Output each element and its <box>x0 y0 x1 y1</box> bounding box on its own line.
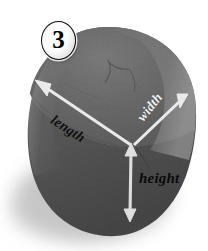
figure-canvas: length width height 3 <box>0 0 208 251</box>
specimen-number-badge: 3 <box>41 21 76 60</box>
rock-diagram-graphic <box>0 0 208 251</box>
height-label: height <box>139 171 179 186</box>
badge-number-text: 3 <box>41 21 76 60</box>
